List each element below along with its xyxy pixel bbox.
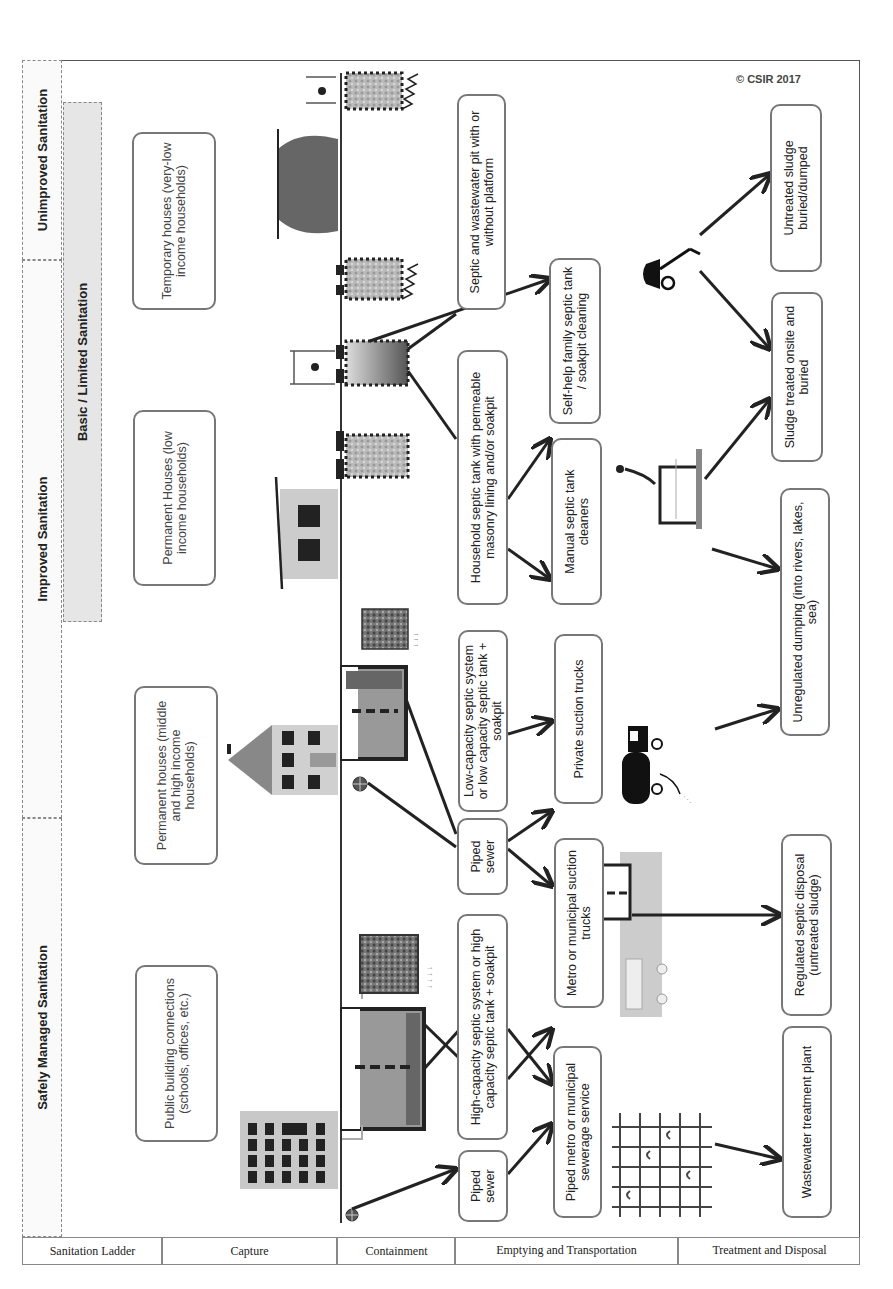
latrine-icon: [290, 341, 408, 385]
soakpit-icon: [336, 431, 408, 479]
svg-text:↓ ↓ ↓ ↓: ↓ ↓ ↓ ↓: [425, 966, 434, 989]
capture-permanent-middle-high: Permanent houses (middle and high income…: [134, 686, 218, 865]
emptying-metro-suction: Metro or municipal suction trucks: [554, 838, 604, 1008]
soakpit-icon: ↓ ↓ ↓ ↓: [360, 935, 434, 993]
soakpit-icon: ↓ ↓ ↓: [362, 609, 419, 649]
manual-cleaner-icon: [616, 449, 702, 529]
sanitation-diagram: Safely Managed Sanitation Improved Sanit…: [0, 0, 893, 1289]
simple-house-icon: [276, 477, 338, 589]
wheelbarrow-icon: [643, 249, 700, 289]
treatment-wastewater-plant: Wastewater treatment plant: [782, 1026, 832, 1218]
latrine-icon: [306, 73, 418, 109]
capture-temporary: Temporary houses (very-low income househ…: [132, 132, 216, 310]
emptying-private-suction: Private suction trucks: [554, 634, 603, 804]
office-building-icon: [240, 1111, 338, 1189]
svg-text:⋰: ⋰: [683, 796, 692, 804]
emptying-manual-cleaners: Manual septic tank cleaners: [551, 438, 602, 605]
manhole-icon: [353, 777, 367, 791]
treatment-sludge-treated-onsite: Sludge treated onsite and buried: [771, 292, 823, 462]
emptying-piped-metro: Piped metro or municipal sewerage servic…: [553, 1046, 602, 1218]
containment-piped-sewer-1: Piped sewer: [458, 1150, 508, 1222]
manhole-icon: [346, 1209, 358, 1221]
soakpit-icon: [336, 259, 418, 299]
temporary-hut-icon: [278, 129, 338, 239]
emptying-self-help: Self-help family septic tank / soakpit c…: [549, 258, 601, 424]
containment-household-septic: Household septic tank with permeable mas…: [457, 350, 508, 605]
multi-storey-house-icon: [227, 725, 338, 795]
capture-permanent-low: Permanent Houses (low income households): [133, 410, 216, 586]
treatment-unregulated-dumping: Unregulated dumping (into rivers, lakes,…: [780, 488, 830, 736]
treatment-regulated-disposal: Regulated septic disposal (untreated slu…: [781, 834, 832, 1016]
containment-high-capacity: High-capacity septic system or high capa…: [457, 914, 508, 1140]
private-truck-icon: ⋰: [622, 726, 692, 804]
containment-septic-wastewater-pit: Septic and wastewater pit with or withou…: [457, 94, 506, 310]
septic-tank-icon: [342, 989, 424, 1139]
containment-low-capacity: Low-capacity septic system or low capaci…: [458, 630, 508, 812]
copyright-label: © CSIR 2017: [736, 73, 816, 89]
containment-piped-sewer-2: Piped sewer: [457, 818, 508, 895]
svg-text:↓ ↓ ↓: ↓ ↓ ↓: [412, 633, 419, 647]
septic-tank-icon: [342, 667, 406, 759]
treatment-untreated-buried: Untreated sludge buried/dumped: [770, 104, 822, 272]
sewer-network-icon: [612, 1113, 712, 1217]
capture-public-building: Public building connections (schools, of…: [135, 965, 218, 1142]
